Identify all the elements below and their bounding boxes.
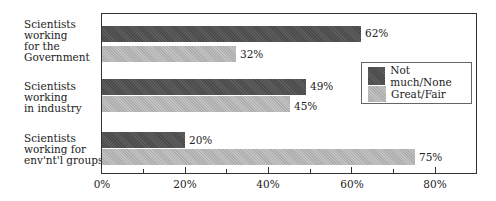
legend-label: Great/Fair: [391, 88, 446, 100]
x-tick-label: 0%: [94, 178, 111, 190]
bar-industry-great-fair: [102, 96, 290, 112]
legend-swatch-dark: [368, 67, 385, 85]
category-label-envntl-groups: Scientists working for env'nt'l groups: [24, 133, 103, 166]
category-label-industry: Scientists working in industry: [24, 81, 82, 114]
minor-tick: [143, 169, 144, 173]
x-tick-label: 80%: [423, 178, 446, 190]
x-tick-label: 60%: [340, 178, 363, 190]
value-label: 20%: [189, 134, 212, 146]
bar-envntl-not-much: [102, 132, 185, 148]
value-label: 75%: [419, 151, 442, 163]
x-tick-label: 40%: [256, 178, 279, 190]
bar-government-not-much: [102, 26, 361, 42]
bar-industry-not-much: [102, 79, 306, 95]
major-tick: [351, 167, 352, 173]
major-tick: [268, 167, 269, 173]
bar-government-great-fair: [102, 46, 236, 62]
value-label: 62%: [365, 27, 388, 39]
bar-envntl-great-fair: [102, 149, 415, 165]
legend: Not much/None Great/Fair: [361, 62, 472, 104]
major-tick: [435, 167, 436, 173]
minor-tick: [310, 169, 311, 173]
legend-item-great-fair: Great/Fair: [368, 85, 446, 103]
legend-item-not-much: Not much/None: [368, 67, 471, 85]
legend-swatch-light: [368, 86, 386, 102]
minor-tick: [226, 169, 227, 173]
minor-tick: [393, 169, 394, 173]
value-label: 45%: [294, 100, 317, 112]
x-tick-label: 20%: [173, 178, 196, 190]
major-tick: [185, 167, 186, 173]
value-label: 49%: [310, 80, 333, 92]
category-label-government: Scientists working for the Government: [24, 19, 90, 63]
value-label: 32%: [240, 48, 263, 60]
